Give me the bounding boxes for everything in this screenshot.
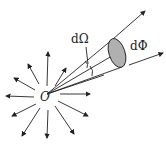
ray-upleft-2 xyxy=(14,78,35,90)
solid-angle-diagram xyxy=(0,0,166,146)
upper-ray-extension xyxy=(113,11,145,39)
ray-downright xyxy=(55,106,74,134)
ray-downleft xyxy=(12,104,36,116)
ray-downright-2 xyxy=(58,101,88,116)
ray-up xyxy=(47,52,48,86)
source-label: O xyxy=(40,91,50,103)
flux-label: dΦ xyxy=(130,40,148,52)
ray-upleft xyxy=(28,64,39,84)
solid-angle-label: dΩ xyxy=(71,33,89,45)
ray-down xyxy=(47,110,48,138)
flux-area xyxy=(105,36,129,69)
ray-left xyxy=(6,96,34,97)
cone-upper-edge xyxy=(47,39,113,94)
cone-axis xyxy=(47,53,117,94)
ray-downleft-2 xyxy=(22,108,40,136)
lower-ray-extension xyxy=(129,53,163,65)
